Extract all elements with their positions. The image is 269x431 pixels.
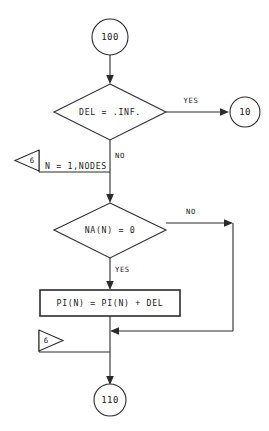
decision-one-label: DEL = .INF. xyxy=(79,107,141,117)
arrow-head-down-icon xyxy=(106,281,114,290)
decision-two-yes-label: YES xyxy=(115,265,130,274)
process-one-node[interactable]: PI(N) = PI(N) + DEL xyxy=(40,290,180,316)
edge-start-to-decision-one xyxy=(106,55,114,84)
process-one-label: PI(N) = PI(N) + DEL xyxy=(57,298,164,308)
edge-decision-one-yes: YES xyxy=(166,96,229,116)
loop-open-node[interactable]: 6 N = 1,NODES xyxy=(15,150,110,172)
decision-two-node[interactable]: NA(N) = 0 xyxy=(54,203,166,258)
decision-one-no-label: NO xyxy=(115,151,125,160)
exit-connector-node[interactable]: 10 xyxy=(230,97,260,127)
decision-two-no-label: NO xyxy=(186,207,196,216)
loop-open-flag-label: 6 xyxy=(30,156,34,165)
flowchart-svg: 100 DEL = .INF. YES 10 NO xyxy=(0,0,269,431)
start-connector-node[interactable]: 100 xyxy=(92,19,128,55)
loop-open-flag-triangle xyxy=(15,150,39,171)
arrow-head-left-icon xyxy=(110,327,119,335)
arrow-head-right-icon xyxy=(224,219,233,227)
start-connector-label: 100 xyxy=(101,32,118,42)
exit-connector-label: 10 xyxy=(239,107,251,117)
decision-one-node[interactable]: DEL = .INF. xyxy=(54,84,166,140)
edge-decision-two-yes: YES xyxy=(106,258,130,290)
decision-one-yes-label: YES xyxy=(184,96,199,105)
end-connector-node[interactable]: 110 xyxy=(94,384,126,416)
end-connector-label: 110 xyxy=(101,395,118,405)
loop-close-node[interactable]: 6 xyxy=(39,330,110,352)
edge-merge-to-end xyxy=(106,352,114,385)
arrow-head-right-icon xyxy=(220,108,229,116)
arrow-head-down-icon xyxy=(106,75,114,84)
loop-close-flag-triangle xyxy=(39,330,63,351)
decision-two-label: NA(N) = 0 xyxy=(85,225,136,235)
arrow-head-down-icon xyxy=(106,194,114,203)
loop-close-flag-label: 6 xyxy=(44,336,48,345)
loop-open-range-label: N = 1,NODES xyxy=(45,161,107,171)
flowchart-canvas: 100 DEL = .INF. YES 10 NO xyxy=(0,0,269,431)
